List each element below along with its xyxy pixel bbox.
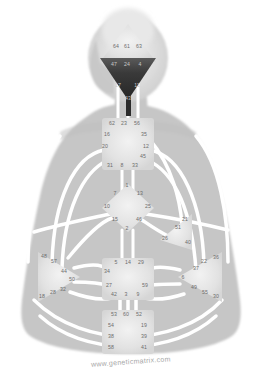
gate-60: 60 [123,311,129,317]
gate-14: 14 [125,259,131,265]
gate-8: 8 [121,162,124,168]
gate-12: 12 [143,143,149,149]
gate-41: 41 [141,344,147,350]
gate-61: 61 [124,43,130,49]
gate-56: 56 [134,120,140,126]
gate-62: 62 [109,120,115,126]
gate-22: 22 [201,258,207,264]
bodygraph-svg: 64 61 63 47 24 4 17 11 43 62 23 56 16 35… [0,0,263,378]
gate-47: 47 [111,61,117,67]
gate-53: 53 [111,311,117,317]
gate-38: 38 [108,333,114,339]
gate-6: 6 [182,274,185,280]
gate-10: 10 [104,203,110,209]
gate-28: 28 [50,289,56,295]
gate-32: 32 [60,286,66,292]
gate-35: 35 [141,131,147,137]
gate-20: 20 [102,143,108,149]
gate-39: 39 [141,333,147,339]
gate-18: 18 [39,293,45,299]
gate-59: 59 [142,282,148,288]
gate-29: 29 [138,259,144,265]
gate-16: 16 [104,131,110,137]
gate-5: 5 [115,259,118,265]
gate-15: 15 [112,216,118,222]
gate-44: 44 [61,268,67,274]
gate-40: 40 [185,239,191,245]
gate-4: 4 [139,61,142,67]
gate-34: 34 [104,268,110,274]
gate-49: 49 [191,284,197,290]
gate-11: 11 [134,82,139,88]
gate-36: 36 [213,254,219,260]
gate-58: 58 [108,344,114,350]
gate-45: 45 [140,153,146,159]
gate-27: 27 [106,282,112,288]
gate-2: 2 [126,225,129,231]
gate-64: 64 [113,43,119,49]
gate-7: 7 [114,190,117,196]
bodygraph-diagram: 64 61 63 47 24 4 17 11 43 62 23 56 16 35… [0,0,263,378]
gate-26: 26 [162,235,168,241]
gate-50: 50 [69,276,75,282]
gate-42: 42 [111,291,117,297]
gate-31: 31 [107,162,113,168]
gate-52: 52 [136,311,142,317]
gate-23: 23 [121,120,127,126]
gate-9: 9 [137,291,140,297]
gate-43: 43 [125,95,131,101]
gates-head: 64 61 63 [113,43,142,49]
gate-46: 46 [136,216,142,222]
gate-13: 13 [137,190,143,196]
gate-57: 57 [51,258,57,264]
gate-21: 21 [182,216,188,222]
gate-54: 54 [108,322,114,328]
gate-19: 19 [141,322,147,328]
gate-51: 51 [175,224,181,230]
gate-37: 37 [193,265,199,271]
gate-17: 17 [115,82,121,88]
gate-3: 3 [125,291,128,297]
gate-25: 25 [145,203,151,209]
watermark-url: www.geneticmatrix.com [90,355,171,369]
gate-48: 48 [41,253,47,259]
gate-1: 1 [126,182,129,188]
gate-24: 24 [124,61,130,67]
gate-55: 55 [202,289,208,295]
gate-30: 30 [213,293,219,299]
gate-33: 33 [132,162,138,168]
gate-63: 63 [136,43,142,49]
